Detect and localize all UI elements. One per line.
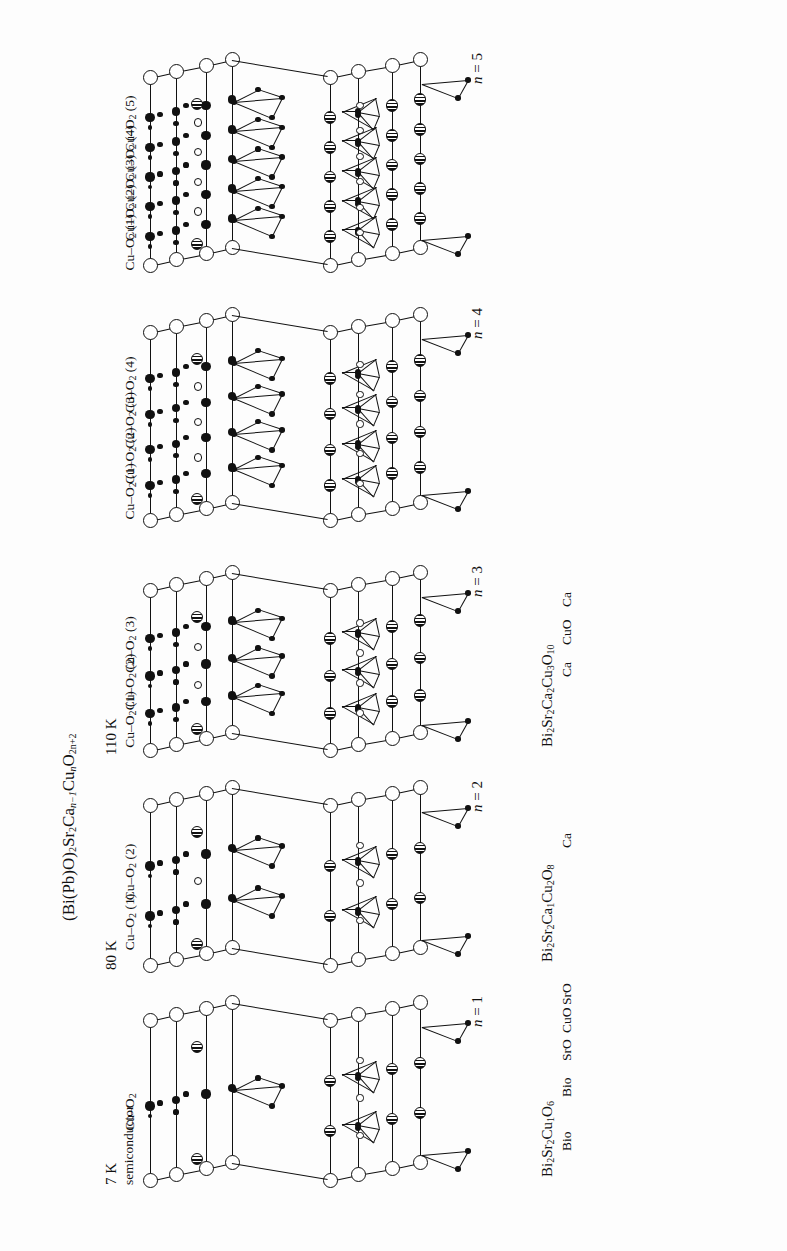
hatched-circle-atom [414, 390, 426, 402]
oxygen-atom [355, 112, 361, 118]
ca-ring-atom [194, 382, 202, 390]
hatched-circle-atom [386, 432, 398, 444]
large-open-circle-atom [199, 502, 214, 517]
cu-atom [145, 1101, 154, 1110]
oxygen-atom [148, 684, 153, 689]
oxygen-atom [255, 835, 260, 840]
oxygen-atom [173, 717, 178, 722]
cu-atom [145, 671, 154, 680]
cu-atom [172, 107, 180, 115]
lattice-row [232, 788, 233, 948]
cell-edge [232, 948, 328, 965]
hatched-circle-atom [324, 910, 336, 922]
lattice-row [392, 321, 393, 509]
pyramid-edge [422, 1023, 468, 1028]
lattice-row [392, 1009, 393, 1169]
octahedron-edge [375, 187, 380, 205]
hatched-circle-atom [386, 898, 398, 910]
oxygen-atom [255, 419, 260, 424]
ca-ring-atom [194, 148, 202, 156]
oxygen-atom [148, 874, 153, 879]
oxygen-atom [183, 624, 188, 629]
cu-atom [231, 847, 237, 853]
hatched-circle-atom [324, 444, 336, 456]
figure-page: Cu–O27 Ksemiconductorn = 1Bi2Sr2Cu1O6Cu–… [0, 0, 787, 1251]
large-open-circle-atom [351, 320, 366, 335]
hatched-circle-atom [386, 129, 398, 141]
pyramid-edge [233, 900, 272, 917]
cu-atom [145, 709, 154, 718]
oxygen-atom [255, 176, 260, 181]
oxygen-atom [455, 350, 461, 356]
hatched-circle-atom [324, 408, 336, 420]
oxygen-atom [183, 133, 188, 138]
octahedron-edge [373, 674, 380, 688]
pyramid-edge [421, 812, 458, 827]
oxygen-atom [279, 391, 285, 397]
oxygen-atom [455, 951, 461, 957]
formula-label-n1: Bi2Sr2Cu1O6 [540, 1101, 556, 1177]
oxygen-atom [269, 483, 275, 489]
lattice-row [232, 573, 233, 733]
lattice-row [420, 315, 421, 503]
oxygen-atom [157, 373, 162, 378]
cu-atom [172, 475, 180, 483]
oxygen-atom [183, 901, 188, 906]
tc-label-n3: 110 K [104, 718, 119, 755]
layer-label-sro-1: SrO [560, 1039, 574, 1061]
ca-ring-atom [356, 1132, 363, 1139]
tc-label-n2: 80 K [104, 940, 119, 970]
oxygen-atom [183, 222, 188, 227]
n-label-n1: n = 1 [470, 996, 485, 1027]
oxygen-atom [173, 121, 178, 126]
octahedron-edge [375, 430, 380, 448]
cu-atom [172, 1096, 180, 1104]
large-open-circle-atom [169, 253, 184, 268]
oxygen-atom [279, 427, 285, 433]
pyramid-edge [233, 220, 272, 237]
large-open-circle-atom [413, 996, 428, 1011]
n-label-n3: n = 3 [470, 566, 485, 597]
lattice-row [330, 1021, 331, 1181]
hatched-circle-atom [324, 670, 336, 682]
lattice-row [232, 315, 233, 503]
oxygen-atom [269, 913, 275, 919]
hatched-circle-atom [414, 153, 426, 165]
large-open-circle-atom [413, 308, 428, 323]
pyramid-edge [233, 850, 272, 867]
layer-label-ca-n2: Ca [560, 833, 574, 848]
ca-ring-atom [356, 204, 363, 211]
oxygen-atom [355, 444, 361, 450]
hatched-circle-atom [191, 353, 203, 365]
oxygen-atom [255, 455, 260, 460]
cu-atom [172, 368, 180, 376]
hatched-circle-atom [191, 1153, 203, 1165]
oxygen-atom [269, 204, 275, 210]
octahedron-edge [375, 619, 380, 637]
octahedron-edge [373, 636, 380, 650]
large-open-circle-atom [351, 953, 366, 968]
lattice-row [206, 321, 207, 509]
hatched-circle-atom [324, 860, 336, 872]
ca-ring-atom [356, 229, 363, 236]
hatched-circle-atom [324, 1075, 336, 1087]
cu-atom [145, 202, 154, 211]
large-open-circle-atom [199, 314, 214, 329]
oxygen-atom [255, 645, 260, 650]
ca-ring-atom [356, 420, 363, 427]
large-open-circle-atom [143, 744, 158, 759]
pyramid-edge [422, 236, 468, 241]
large-open-circle-atom [413, 781, 428, 796]
pyramid-edge [233, 434, 272, 451]
octahedron-edge [375, 656, 380, 674]
hatched-circle-atom [414, 652, 426, 664]
oxygen-atom [157, 142, 162, 147]
oxygen-atom [173, 919, 178, 924]
oxygen-atom [183, 661, 188, 666]
oxygen-atom [279, 893, 285, 899]
oxygen-atom [157, 860, 162, 865]
octahedron-edge [373, 711, 380, 725]
cu-atom [201, 697, 210, 706]
cell-edge [232, 503, 328, 520]
octahedron-edge [375, 846, 380, 864]
